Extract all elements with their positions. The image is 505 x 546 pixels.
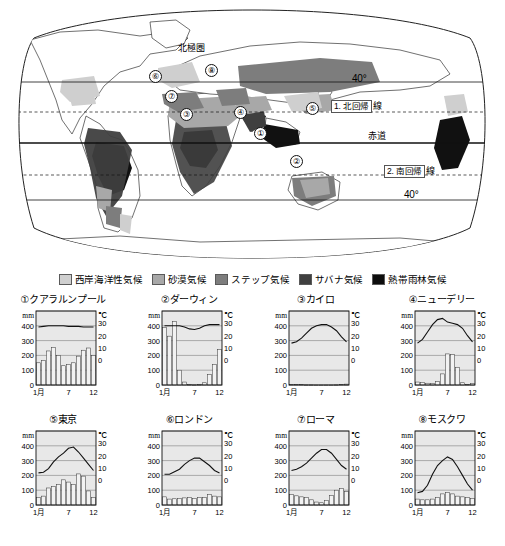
svg-text:400: 400 — [22, 442, 35, 451]
climograph-plot-5: 4003002001000mm3020100℃1月712 — [10, 427, 116, 519]
svg-text:20: 20 — [351, 332, 359, 341]
svg-text:12: 12 — [468, 508, 476, 517]
climograph-title-6: ⑥ロンドン — [126, 412, 252, 427]
map-marker-1[interactable]: ① — [254, 127, 267, 140]
climograph-title-7: ⑦ローマ — [253, 412, 379, 427]
tropic-of-cancer-box: 1. 北回帰 — [331, 100, 372, 113]
map-marker-2[interactable]: ② — [290, 155, 303, 168]
legend-swatch-oceanic — [59, 274, 72, 285]
svg-text:200: 200 — [22, 351, 35, 360]
svg-text:30: 30 — [351, 439, 359, 448]
climograph-title-5: ⑤東京 — [0, 412, 126, 427]
climographs: ①クアラルンプール 4003002001000mm3020100℃1月712 ②… — [0, 292, 505, 546]
legend-label-desert: 砂漠気候 — [168, 272, 207, 286]
svg-text:12: 12 — [89, 388, 97, 397]
svg-text:7: 7 — [445, 508, 449, 517]
legend-label-savanna: サバナ気候 — [315, 272, 364, 286]
svg-text:30: 30 — [351, 319, 359, 328]
svg-text:12: 12 — [89, 508, 97, 517]
legend-label-rainforest: 熱帯雨林気候 — [388, 272, 446, 286]
map-label-tropic-of-capricorn: 2. 南回帰 線 — [384, 165, 435, 178]
svg-text:1月: 1月 — [412, 388, 423, 397]
legend-label-steppe: ステップ気候 — [231, 272, 289, 286]
svg-text:7: 7 — [67, 508, 71, 517]
svg-text:12: 12 — [342, 388, 350, 397]
map-marker-4[interactable]: ④ — [234, 106, 247, 119]
climograph-title-1: ①クアラルンプール — [0, 292, 126, 307]
svg-text:30: 30 — [224, 319, 232, 328]
svg-text:100: 100 — [148, 366, 161, 375]
svg-text:200: 200 — [400, 471, 413, 480]
svg-text:400: 400 — [400, 322, 413, 331]
climograph-7: ⑦ローマ 4003002001000mm3020100℃1月712 — [253, 412, 379, 540]
svg-text:200: 200 — [274, 351, 287, 360]
svg-text:30: 30 — [224, 439, 232, 448]
climograph-plot-7: 4003002001000mm3020100℃1月712 — [263, 427, 369, 519]
svg-text:300: 300 — [148, 457, 161, 466]
svg-text:℃: ℃ — [477, 431, 486, 440]
svg-text:0: 0 — [98, 476, 102, 485]
svg-text:20: 20 — [477, 332, 485, 341]
climograph-3: ③カイロ 4003002001000mm3020100℃1月712 — [253, 292, 379, 412]
svg-text:1月: 1月 — [286, 388, 297, 397]
svg-text:100: 100 — [274, 486, 287, 495]
svg-text:400: 400 — [274, 322, 287, 331]
svg-text:100: 100 — [148, 486, 161, 495]
climograph-title-3: ③カイロ — [253, 292, 379, 307]
svg-text:7: 7 — [319, 508, 323, 517]
svg-text:10: 10 — [98, 344, 106, 353]
svg-text:mm: mm — [22, 311, 34, 320]
svg-text:0: 0 — [351, 356, 355, 365]
svg-text:400: 400 — [274, 442, 287, 451]
map-marker-7[interactable]: ⑦ — [165, 90, 178, 103]
svg-text:20: 20 — [351, 452, 359, 461]
map-marker-3[interactable]: ③ — [180, 108, 193, 121]
svg-text:0: 0 — [98, 356, 102, 365]
svg-text:1月: 1月 — [159, 508, 170, 517]
svg-text:300: 300 — [22, 457, 35, 466]
svg-text:7: 7 — [193, 508, 197, 517]
climograph-plot-8: 4003002001000mm3020100℃1月712 — [389, 427, 495, 519]
svg-text:10: 10 — [351, 344, 359, 353]
svg-text:℃: ℃ — [351, 311, 360, 320]
svg-text:300: 300 — [400, 337, 413, 346]
svg-text:℃: ℃ — [98, 311, 107, 320]
svg-text:10: 10 — [477, 344, 485, 353]
svg-text:100: 100 — [22, 486, 35, 495]
svg-text:30: 30 — [98, 319, 106, 328]
svg-text:30: 30 — [98, 439, 106, 448]
climograph-5: ⑤東京 4003002001000mm3020100℃1月712 — [0, 412, 126, 540]
svg-text:℃: ℃ — [351, 431, 360, 440]
svg-text:30: 30 — [477, 319, 485, 328]
svg-text:7: 7 — [319, 388, 323, 397]
legend-swatch-savanna — [299, 274, 312, 285]
map-label-latitude-40-south: 40° — [404, 190, 419, 200]
legend-item-savanna: サバナ気候 — [299, 272, 364, 286]
climograph-title-8: ⑧モスクワ — [379, 412, 505, 427]
svg-text:7: 7 — [193, 388, 197, 397]
climograph-6: ⑥ロンドン 4003002001000mm3020100℃1月712 — [126, 412, 252, 540]
svg-text:0: 0 — [477, 356, 481, 365]
svg-text:200: 200 — [274, 471, 287, 480]
map-marker-6[interactable]: ⑥ — [149, 70, 162, 83]
climograph-plot-6: 4003002001000mm3020100℃1月712 — [136, 427, 242, 519]
legend-swatch-rainforest — [372, 274, 385, 285]
svg-text:20: 20 — [98, 332, 106, 341]
svg-text:300: 300 — [400, 457, 413, 466]
climograph-8: ⑧モスクワ 4003002001000mm3020100℃1月712 — [379, 412, 505, 540]
svg-text:20: 20 — [98, 452, 106, 461]
legend-item-steppe: ステップ気候 — [215, 272, 289, 286]
legend-item-oceanic: 西岸海洋性気候 — [59, 272, 143, 286]
svg-text:mm: mm — [149, 311, 161, 320]
svg-text:200: 200 — [148, 471, 161, 480]
svg-text:400: 400 — [148, 442, 161, 451]
world-climate-map: 北極圏 40° 1. 北回帰 線 赤道 2. 南回帰 線 40° ① ② ③ ④… — [0, 0, 505, 268]
tropic-of-cancer-suffix: 線 — [373, 102, 382, 111]
map-marker-8[interactable]: ⑧ — [205, 64, 218, 77]
svg-text:10: 10 — [224, 344, 232, 353]
svg-text:mm: mm — [275, 311, 287, 320]
map-marker-5[interactable]: ⑤ — [306, 102, 319, 115]
svg-text:mm: mm — [401, 431, 413, 440]
svg-text:300: 300 — [274, 457, 287, 466]
svg-text:20: 20 — [477, 452, 485, 461]
